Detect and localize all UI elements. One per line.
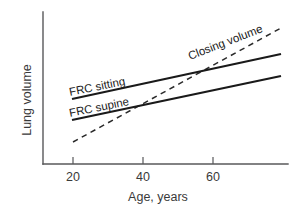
x-tick-label-40: 40 [136, 170, 150, 184]
lung-volume-age-chart: 20 40 60 Age, years Lung volume FRC sitt… [0, 0, 294, 208]
x-axis-title: Age, years [128, 190, 188, 204]
x-tick-label-20: 20 [66, 170, 80, 184]
chart-canvas: 20 40 60 Age, years Lung volume FRC sitt… [0, 0, 294, 208]
series-label-closing-volume: Closing volume [186, 22, 264, 61]
x-tick-label-60: 60 [206, 170, 220, 184]
y-axis-title: Lung volume [20, 64, 34, 136]
series-line-frc-sitting [72, 54, 281, 99]
